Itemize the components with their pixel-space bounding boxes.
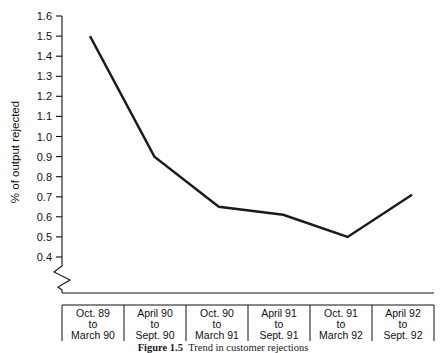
y-axis-tick-labels: 1.6 1.5 1.4 1.3 1.2 1.1 1.0 0.9 0.8 0.7 …: [37, 10, 52, 263]
y-tick-label: 1.0: [37, 131, 52, 143]
y-tick-label: 0.4: [37, 251, 52, 263]
y-tick-label: 0.6: [37, 211, 52, 223]
line-chart: 1.6 1.5 1.4 1.3 1.2 1.1 1.0 0.9 0.8 0.7 …: [0, 0, 446, 353]
y-tick-label: 0.9: [37, 151, 52, 163]
y-tick-label: 0.7: [37, 191, 52, 203]
y-tick-label: 1.4: [37, 50, 52, 62]
figure-caption-number: Figure 1.5: [138, 342, 183, 353]
category-label-line: March 90: [71, 329, 115, 341]
figure-container: 1.6 1.5 1.4 1.3 1.2 1.1 1.0 0.9 0.8 0.7 …: [0, 0, 446, 353]
y-tick-label: 1.1: [37, 110, 52, 122]
category-label-line: Sept. 91: [259, 329, 298, 341]
y-tick-label: 1.6: [37, 10, 52, 22]
y-tick-label: 1.3: [37, 70, 52, 82]
category-label-line: March 92: [319, 329, 363, 341]
y-tick-label: 1.2: [37, 90, 52, 102]
category-band: [62, 305, 434, 341]
category-label-line: Sept. 90: [135, 329, 174, 341]
y-axis-ticks: [56, 16, 62, 257]
category-label-line: Sept. 92: [383, 329, 422, 341]
y-tick-label: 1.5: [37, 30, 52, 42]
data-series-line: [90, 36, 412, 237]
y-axis-title: % of output rejected: [9, 101, 21, 203]
figure-caption: Figure 1.5 Trend in customer rejections: [0, 342, 446, 353]
figure-caption-strip: Figure 1.5 Trend in customer rejections: [0, 342, 446, 353]
axis-break-icon: [54, 262, 70, 293]
figure-caption-text: Trend in customer rejections: [188, 342, 308, 353]
category-label-line: March 91: [195, 329, 239, 341]
y-tick-label: 0.8: [37, 171, 52, 183]
y-tick-label: 0.5: [37, 231, 52, 243]
